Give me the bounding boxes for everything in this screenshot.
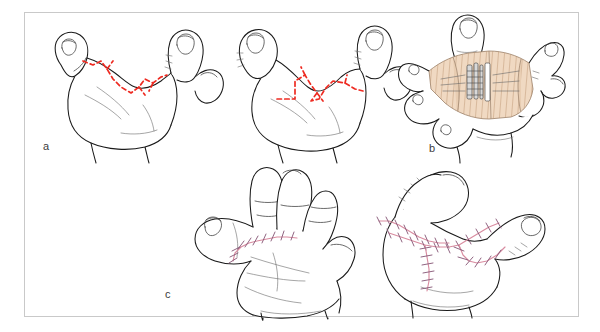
panel-c: c	[125, 161, 580, 318]
panel-a: a	[25, 13, 395, 163]
hand-c-right	[377, 172, 545, 318]
hand-c-left	[195, 168, 355, 321]
figure-canvas: a	[0, 0, 600, 332]
panel-c-label: c	[165, 289, 171, 300]
incision-marking-a4	[301, 67, 347, 101]
panel-b-label: b	[429, 143, 435, 154]
suture-line-c-right-horizontal	[387, 219, 501, 253]
panel-a-artwork	[25, 13, 395, 163]
suture-line-c-right-descending	[420, 245, 434, 291]
panel-b-artwork	[393, 13, 580, 163]
figure-frame: a	[24, 12, 579, 317]
panel-c-artwork	[125, 161, 580, 318]
hand-a-left	[55, 30, 223, 163]
hand-a-right	[237, 26, 412, 163]
panel-a-label: a	[43, 141, 49, 152]
incision-marking-a2	[107, 61, 153, 95]
panel-b: b	[393, 13, 580, 163]
